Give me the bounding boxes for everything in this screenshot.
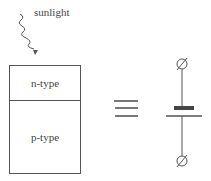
p-type-label: p-type: [31, 131, 59, 143]
p-type-layer: p-type: [10, 101, 80, 173]
sunlight-label: sunlight: [34, 6, 69, 18]
sunlight-wavy-arrow-icon: [19, 14, 38, 55]
battery-symbol-icon: [166, 69, 202, 156]
n-type-layer: n-type: [10, 66, 80, 101]
top-terminal-icon: [177, 58, 187, 70]
n-type-label: n-type: [31, 77, 59, 89]
equivalence-icon: [114, 101, 138, 116]
solar-cell-box: n-type p-type: [9, 65, 81, 174]
bottom-terminal-icon: [177, 155, 187, 167]
